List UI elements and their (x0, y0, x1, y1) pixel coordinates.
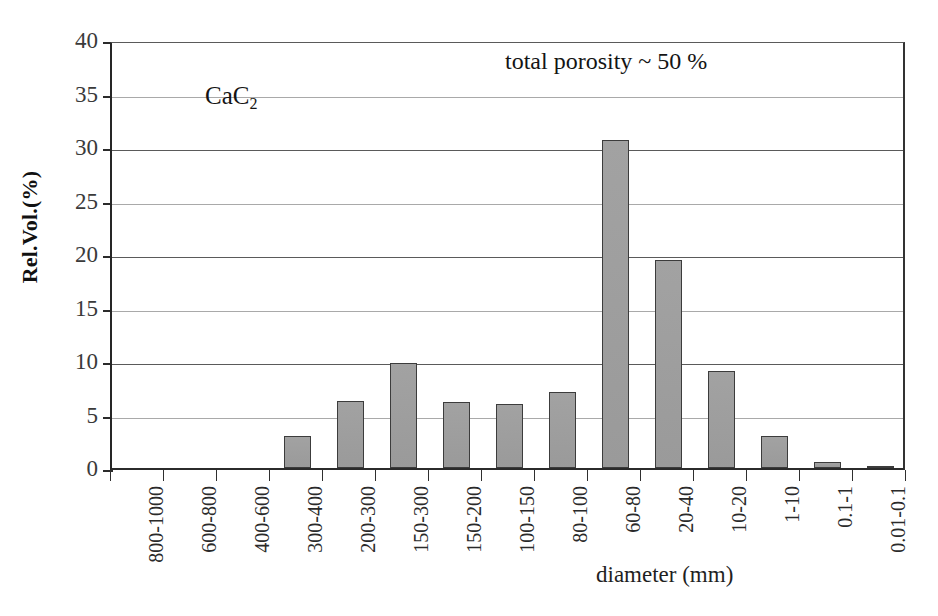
x-tick-label-800-1000: 800-1000 (145, 486, 167, 596)
y-axis-tick-labels: 0510152025303540 (0, 0, 106, 616)
y-tick-label-25: 25 (48, 190, 98, 213)
bar-80-100 (549, 392, 577, 468)
x-tick-label-0.1-1: 0.1-1 (834, 486, 856, 596)
x-tick-mark-10 (640, 470, 641, 481)
y-tick-label-40: 40 (48, 29, 98, 52)
x-tick-mark-13 (799, 470, 800, 481)
y-tick-label-10: 10 (48, 350, 98, 373)
sample-label-main: CaC (205, 82, 249, 109)
x-tick-mark-1 (163, 470, 164, 481)
x-tick-label-150-200: 150-200 (463, 486, 485, 596)
bar-20-40 (655, 260, 683, 468)
x-tick-mark-7 (481, 470, 482, 481)
x-tick-label-1-10: 1-10 (781, 486, 803, 596)
x-tick-label-400-600: 400-600 (251, 486, 273, 596)
chart-figure: Rel.Vol.(%) 0510152025303540 800-1000600… (0, 0, 938, 616)
x-tick-mark-6 (428, 470, 429, 481)
bar-300-400 (284, 436, 312, 468)
sample-label-subscript: 2 (249, 95, 257, 112)
annotation-total-porosity: total porosity ~ 50 % (505, 48, 707, 75)
x-tick-mark-11 (693, 470, 694, 481)
bar-0.1-1 (814, 462, 842, 468)
x-tick-mark-12 (746, 470, 747, 481)
y-tick-label-0: 0 (48, 457, 98, 480)
x-tick-label-100-150: 100-150 (516, 486, 538, 596)
x-tick-mark-8 (534, 470, 535, 481)
annotation-sample-label: CaC2 (205, 82, 257, 110)
bar-150-200 (443, 402, 471, 468)
bar-60-80 (602, 140, 630, 468)
y-tick-label-30: 30 (48, 136, 98, 159)
bar-150-300 (390, 363, 418, 468)
x-tick-label-200-300: 200-300 (357, 486, 379, 596)
x-tick-mark-2 (216, 470, 217, 481)
x-tick-mark-3 (269, 470, 270, 481)
y-tick-label-20: 20 (48, 243, 98, 266)
x-tick-label-600-800: 600-800 (198, 486, 220, 596)
x-tick-label-150-300: 150-300 (410, 486, 432, 596)
bar-10-20 (708, 371, 736, 468)
bar-200-300 (337, 401, 365, 468)
x-tick-mark-0 (110, 470, 111, 481)
bar-0.01-0.1 (867, 466, 895, 468)
x-tick-mark-5 (375, 470, 376, 481)
x-tick-mark-4 (322, 470, 323, 481)
y-tick-mark-0 (103, 470, 113, 472)
y-tick-label-5: 5 (48, 404, 98, 427)
bar-1-10 (761, 436, 789, 468)
x-tick-label-300-400: 300-400 (304, 486, 326, 596)
y-tick-label-15: 15 (48, 297, 98, 320)
x-tick-mark-9 (587, 470, 588, 481)
x-tick-label-80-100: 80-100 (569, 486, 591, 596)
x-tick-mark-15 (905, 470, 906, 481)
x-axis-title: diameter (mm) (596, 562, 733, 588)
x-tick-mark-14 (852, 470, 853, 481)
x-tick-label-0.01-0.1: 0.01-0.1 (887, 486, 909, 596)
y-tick-label-35: 35 (48, 83, 98, 106)
bar-100-150 (496, 404, 524, 468)
